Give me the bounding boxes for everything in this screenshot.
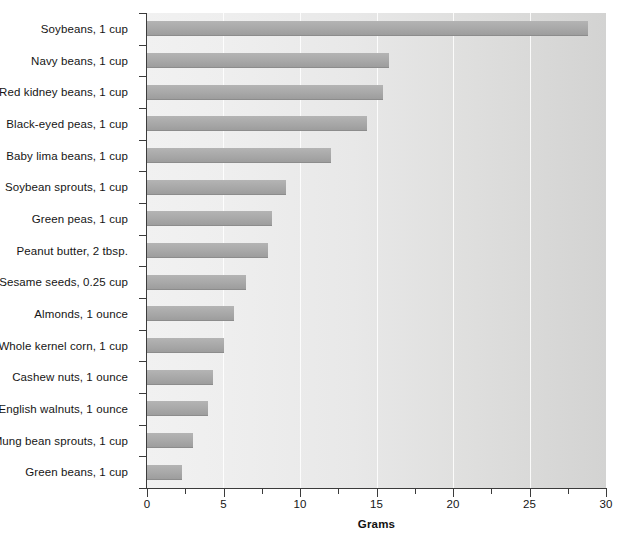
bar [147, 148, 331, 163]
x-axis-major-tick [377, 489, 378, 497]
bar [147, 180, 286, 195]
bar-row [147, 361, 606, 393]
y-axis-ticks [0, 13, 147, 489]
y-axis-tick [139, 171, 146, 172]
x-axis-ticks [147, 489, 606, 497]
bar-row [147, 298, 606, 330]
x-axis-title: Grams [147, 518, 606, 530]
bar-row [147, 235, 606, 267]
bar [147, 370, 213, 385]
y-axis-tick [139, 13, 146, 14]
bar [147, 116, 367, 131]
bar-row [147, 266, 606, 298]
bar-row [147, 140, 606, 172]
plot-area [147, 13, 606, 488]
protein-grams-bar-chart: Soybeans, 1 cupNavy beans, 1 cupRed kidn… [0, 0, 627, 542]
x-axis-major-tick [147, 489, 148, 497]
bar [147, 465, 182, 480]
bar-series [147, 13, 606, 488]
bar-row [147, 425, 606, 457]
bar [147, 21, 588, 36]
bar-row [147, 330, 606, 362]
bar-row [147, 108, 606, 140]
bar [147, 211, 272, 226]
x-axis-major-tick [453, 489, 454, 497]
x-axis-minor-tick [568, 489, 569, 494]
x-axis-minor-tick [262, 489, 263, 494]
y-axis-tick [139, 45, 146, 46]
y-axis-tick [139, 76, 146, 77]
bar-row [147, 456, 606, 488]
bar-row [147, 45, 606, 77]
x-axis-minor-tick [415, 489, 416, 494]
bar [147, 433, 193, 448]
bar [147, 401, 208, 416]
y-axis-tick [139, 108, 146, 109]
x-axis-tick-label: 25 [523, 498, 536, 510]
y-axis-tick [139, 266, 146, 267]
bar [147, 85, 383, 100]
bar-row [147, 13, 606, 45]
bar [147, 53, 389, 68]
bar [147, 243, 268, 258]
x-axis-tick-label: 0 [144, 498, 150, 510]
y-axis-tick [139, 203, 146, 204]
y-axis-tick [139, 425, 146, 426]
x-axis-tick-label: 30 [600, 498, 613, 510]
bar-row [147, 171, 606, 203]
bar-row [147, 76, 606, 108]
x-axis-tick-label: 15 [370, 498, 383, 510]
bar [147, 275, 246, 290]
x-axis-minor-tick [491, 489, 492, 494]
x-axis-major-tick [300, 489, 301, 497]
y-axis-tick [139, 140, 146, 141]
bar [147, 338, 224, 353]
x-axis-minor-tick [185, 489, 186, 494]
x-axis-tick-label: 10 [294, 498, 307, 510]
x-axis-major-tick [224, 489, 225, 497]
y-axis-tick [139, 330, 146, 331]
x-axis-major-tick [530, 489, 531, 497]
y-axis-tick [139, 361, 146, 362]
y-axis-tick [139, 488, 146, 489]
y-axis-tick [139, 298, 146, 299]
bar-row [147, 393, 606, 425]
x-axis-tick-label: 5 [220, 498, 226, 510]
x-axis-minor-tick [338, 489, 339, 494]
y-axis-tick [139, 393, 146, 394]
bar [147, 306, 234, 321]
x-axis-tick-label: 20 [447, 498, 460, 510]
y-axis-tick [139, 235, 146, 236]
x-axis-tick-labels: 051015202530 [147, 498, 606, 514]
x-axis-major-tick [606, 489, 607, 497]
bar-row [147, 203, 606, 235]
y-axis-tick [139, 456, 146, 457]
